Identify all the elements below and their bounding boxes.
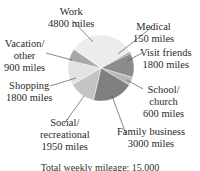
label-family-business: Family business 3000 miles: [117, 126, 185, 150]
label-work: Work 4800 miles: [48, 6, 94, 30]
label-school-church: School/ church 600 miles: [143, 84, 184, 120]
total-mileage-caption: Total weekly mileage: 15,000: [0, 162, 200, 171]
leader-vacation: [46, 53, 72, 60]
label-shopping: Shopping 1800 miles: [6, 80, 52, 104]
label-visit-friends: Visit friends 1800 miles: [140, 47, 192, 71]
pie-slices: [68, 35, 134, 101]
label-vacation-other: Vacation/ other 900 miles: [4, 38, 45, 74]
label-medical: Medical 150 miles: [133, 21, 174, 45]
label-social-recreational: Social/ recreational 1950 miles: [40, 117, 90, 153]
